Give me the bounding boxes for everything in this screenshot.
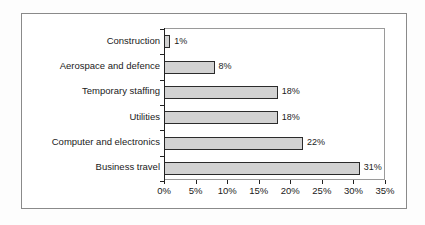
value-tick-label: 5%: [189, 186, 203, 196]
category-label: Aerospace and defence: [60, 61, 160, 71]
value-axis-line: [164, 28, 165, 182]
bar-value-label: 31%: [364, 163, 382, 172]
value-tick-label: 35%: [375, 186, 394, 196]
category-label: Temporary staffing: [82, 86, 160, 96]
value-axis: 0%5%10%15%20%25%30%35%: [164, 180, 385, 206]
value-tick: [322, 180, 323, 184]
bar-value-label: 1%: [174, 37, 187, 46]
chart-screenshot: ConstructionAerospace and defenceTempora…: [0, 0, 425, 225]
bar: [164, 162, 360, 175]
bar-value-label: 18%: [282, 87, 300, 96]
value-tick: [227, 180, 228, 184]
category-label: Computer and electronics: [52, 137, 160, 147]
value-tick-label: 15%: [249, 186, 268, 196]
bar: [164, 111, 278, 124]
value-tick: [353, 180, 354, 184]
value-tick: [196, 180, 197, 184]
value-tick: [290, 180, 291, 184]
value-tick-label: 20%: [281, 186, 300, 196]
value-tick-label: 25%: [312, 186, 331, 196]
category-axis-labels: ConstructionAerospace and defenceTempora…: [32, 28, 160, 180]
bar-value-label: 18%: [282, 113, 300, 122]
value-tick-label: 10%: [218, 186, 237, 196]
chart-frame: ConstructionAerospace and defenceTempora…: [21, 13, 407, 209]
bar-value-label: 22%: [307, 138, 325, 147]
category-label: Utilities: [129, 112, 160, 122]
value-tick: [259, 180, 260, 184]
value-tick-label: 30%: [344, 186, 363, 196]
bar-value-label: 8%: [219, 62, 232, 71]
value-tick: [385, 180, 386, 184]
bar: [164, 61, 215, 74]
bar: [164, 86, 278, 99]
category-label: Construction: [107, 36, 160, 46]
bar: [164, 137, 303, 150]
value-tick-label: 0%: [157, 186, 171, 196]
category-label: Business travel: [96, 162, 160, 172]
plot-area: 1%8%18%18%22%31%: [164, 28, 385, 180]
value-tick: [164, 180, 165, 184]
